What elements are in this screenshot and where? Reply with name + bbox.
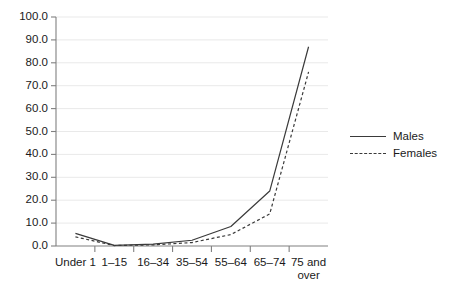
legend-label: Females: [393, 147, 437, 160]
series-line-females: [75, 72, 308, 246]
data-series: [75, 47, 308, 246]
x-axis: Under 11–1516–3435–5455–6465–7475 and ov…: [56, 252, 336, 292]
legend-item-females[interactable]: Females: [350, 145, 450, 162]
axis-ticks: [51, 17, 289, 252]
line-chart: 0.010.020.030.040.050.060.070.080.090.01…: [0, 0, 452, 295]
chart-legend: MalesFemales: [350, 128, 450, 162]
legend-label: Males: [393, 130, 424, 143]
series-line-males: [75, 47, 308, 246]
legend-swatch-dashed-line-icon: [350, 153, 386, 155]
legend-item-males[interactable]: Males: [350, 128, 450, 145]
x-axis-tick-label: 75 and over: [288, 256, 330, 282]
legend-swatch-solid-line-icon: [350, 136, 386, 138]
gridlines: [56, 17, 328, 223]
